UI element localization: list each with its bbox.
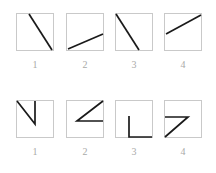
panel-bottom-1[interactable] (16, 100, 54, 138)
polyline-bottom-1 (16, 100, 54, 138)
panel-label-top-1: 1 (16, 58, 54, 72)
panel-label-top-3: 3 (115, 58, 153, 72)
panel-strip-bottom (0, 87, 216, 145)
panel-bottom-4[interactable] (164, 100, 202, 138)
stroke-path (129, 116, 152, 137)
panel-label-strip-bottom: 1 2 3 4 (0, 145, 216, 167)
panel-label-bottom-2: 2 (66, 145, 104, 159)
panel-top-2[interactable] (66, 13, 104, 51)
panel-top-1[interactable] (16, 13, 54, 51)
line-segment-top-3 (115, 13, 153, 51)
stroke-path (29, 14, 52, 50)
stroke-path (68, 34, 103, 49)
panel-label-strip-top: 1 2 3 4 (0, 58, 216, 80)
panel-top-4[interactable] (164, 13, 202, 51)
polyline-bottom-3 (115, 100, 153, 138)
panel-strip-top (0, 0, 216, 58)
panel-row-bottom: 1 2 3 4 (0, 87, 216, 173)
line-segment-top-1 (16, 13, 54, 51)
line-segment-top-2 (66, 13, 104, 51)
panel-row-top: 1 2 3 4 (0, 0, 216, 86)
panel-label-bottom-3: 3 (115, 145, 153, 159)
stroke-path (166, 15, 201, 34)
stroke-path (77, 101, 103, 121)
panel-top-3[interactable] (115, 13, 153, 51)
stroke-path (116, 14, 139, 50)
polyline-bottom-4 (164, 100, 202, 138)
panel-label-bottom-4: 4 (164, 145, 202, 159)
panel-bottom-2[interactable] (66, 100, 104, 138)
polyline-bottom-2 (66, 100, 104, 138)
line-segment-top-4 (164, 13, 202, 51)
panel-label-top-4: 4 (164, 58, 202, 72)
stroke-path (17, 101, 35, 124)
panel-bottom-3[interactable] (115, 100, 153, 138)
panel-label-top-2: 2 (66, 58, 104, 72)
stroke-path (165, 117, 188, 137)
line-orientation-figure: 1 2 3 4 (0, 0, 216, 173)
panel-label-bottom-1: 1 (16, 145, 54, 159)
